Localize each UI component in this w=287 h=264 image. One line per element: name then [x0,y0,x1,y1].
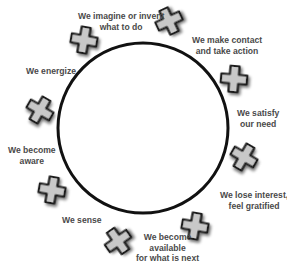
stage-label-contact: We make contact and take action [192,35,262,56]
label-line: We lose interest, [220,190,287,201]
label-line: for what is next [136,253,199,264]
label-line: and take action [192,46,262,57]
cross-icon [220,65,248,93]
label-line: We become [8,145,56,156]
cycle-ring [58,43,228,213]
label-line: available [136,243,199,254]
stage-label-sense: We sense [62,215,102,226]
cross-icon [100,223,136,259]
stage-label-energize: We energize [26,66,76,77]
stage-label-satisfy: We satisfy our need [237,108,279,129]
label-line: We satisfy [237,108,279,119]
label-line: what to do [78,22,164,33]
stage-label-aware: We become aware [8,145,56,166]
stage-label-lose-interest: We lose interest, feel gratified [220,190,287,211]
label-line: We make contact [192,35,262,46]
stage-label-available: We become available for what is next [136,232,199,264]
label-line: We become [136,232,199,243]
cross-icon [226,139,262,175]
cross-icon [22,92,58,128]
label-line: We imagine or invent [78,11,164,22]
label-line: aware [8,156,56,167]
label-line: We energize [26,66,76,77]
label-line: feel gratified [220,201,287,212]
stage-label-imagine: We imagine or invent what to do [78,11,164,32]
cycle-diagram: We imagine or invent what to do We make … [0,0,287,264]
label-line: We sense [62,215,102,226]
label-line: our need [237,119,279,130]
cross-icon [37,175,67,205]
